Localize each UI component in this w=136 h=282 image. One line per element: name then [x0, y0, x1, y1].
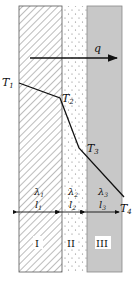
layer-1 — [19, 6, 62, 272]
temperature-label-t4: T4 — [120, 202, 132, 216]
temperature-label-t1: T1 — [2, 76, 14, 90]
layer-2 — [62, 6, 87, 272]
layer-2-numeral: II — [67, 238, 75, 249]
wall-diagram: q T1 T2 T3 T4 λ1 l1 λ2 l2 λ3 l3 I II III — [0, 0, 136, 282]
layer-1-numeral: I — [35, 238, 39, 249]
layer-3-numeral: III — [96, 238, 108, 249]
layer-3 — [87, 6, 122, 272]
heat-flux-label: q — [94, 42, 101, 55]
